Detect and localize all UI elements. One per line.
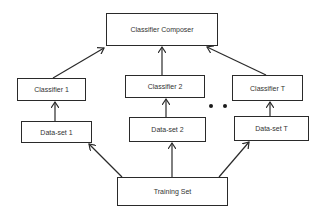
classifier-t-node: Classifier T — [232, 75, 303, 101]
classifier-1-node: Classifier 1 — [17, 78, 86, 101]
dataset-t-label: Data-set T — [255, 125, 288, 132]
diagram-canvas: Classifier Composer Classifier 1 Classif… — [0, 0, 323, 221]
training-set-node: Training Set — [117, 177, 228, 206]
training-set-label: Training Set — [154, 188, 191, 195]
dataset-1-node: Data-set 1 — [21, 121, 92, 143]
dataset-2-label: Data-set 2 — [151, 126, 183, 133]
classifier-2-node: Classifier 2 — [125, 75, 205, 98]
dataset-1-label: Data-set 1 — [40, 129, 72, 136]
dataset-2-node: Data-set 2 — [129, 117, 206, 142]
classifier-1-label: Classifier 1 — [34, 86, 69, 93]
classifier-t-label: Classifier T — [250, 85, 285, 92]
classifier-2-label: Classifier 2 — [148, 83, 183, 90]
arrow-classifier1-to-composer — [53, 48, 104, 78]
ellipsis-dot-1 — [209, 104, 213, 108]
arrow-classifierT-to-composer — [207, 47, 266, 75]
arrow-training-to-dataset1 — [89, 144, 122, 177]
ellipsis-dot-2 — [223, 104, 227, 108]
dataset-t-node: Data-set T — [234, 116, 309, 141]
classifier-composer-label: Classifier Composer — [130, 26, 193, 33]
classifier-composer-node: Classifier Composer — [106, 13, 218, 46]
arrow-training-to-datasetT — [219, 142, 249, 177]
